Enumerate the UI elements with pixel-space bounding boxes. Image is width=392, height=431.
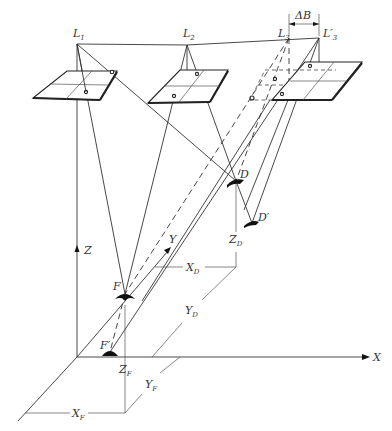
label-xd: XD — [185, 261, 200, 276]
photogrammetry-diagram: L1 L2 L3 L′3 ΔB D D′ F F′ Z Y X XD YD ZD… — [0, 0, 392, 431]
photo-2-point-f — [172, 94, 175, 97]
ray-photo3-f — [142, 100, 270, 301]
photo-3-dashed-point-f — [250, 96, 254, 100]
label-f: F — [112, 280, 121, 293]
delta-b-arrow-right-icon — [313, 22, 319, 26]
point-dprime-marker-icon — [244, 221, 259, 228]
photo-1-plate — [33, 71, 117, 100]
label-l3: L3 — [277, 27, 290, 42]
x-axis-arrow-icon — [362, 354, 370, 360]
ray-l3-d — [236, 38, 289, 181]
label-l1: L1 — [72, 27, 85, 42]
point-f-marker-icon — [115, 294, 135, 301]
label-y-axis: Y — [169, 233, 178, 246]
label-yf: YF — [145, 378, 158, 393]
delta-b-arrow-left-icon — [289, 22, 295, 26]
photo-1 — [33, 44, 117, 100]
label-z-axis: Z — [83, 244, 92, 257]
photo-2-point-d — [195, 72, 198, 75]
label-zd: ZD — [228, 233, 243, 248]
z-axis-arrow-icon — [75, 245, 80, 252]
flight-line-l1-l2 — [77, 44, 187, 45]
label-l3-prime: L′3 — [322, 27, 338, 42]
photo-2 — [148, 70, 228, 103]
label-yd: YD — [185, 304, 198, 319]
flight-line-l2-l3 — [187, 38, 319, 45]
label-d-prime: D′ — [257, 211, 270, 224]
ray-l1-d — [77, 44, 236, 181]
yd-line-lower — [152, 323, 182, 357]
label-zf: ZF — [118, 363, 133, 378]
photo-3-prime-point-f — [280, 92, 283, 95]
yf-line-lower — [125, 394, 142, 413]
yd-line-upper — [202, 267, 236, 300]
photo-3-prime — [272, 62, 362, 100]
label-l2: L2 — [182, 27, 195, 42]
label-f-prime: F′ — [99, 339, 111, 352]
coordinate-axes — [18, 100, 370, 421]
label-d: D — [239, 168, 249, 181]
photo-3-prime-point — [308, 64, 311, 67]
photo-2-edge — [148, 102, 210, 103]
ray-photo3-d — [244, 100, 288, 210]
photo-2-plate — [148, 70, 228, 103]
ray-l2-d — [187, 45, 236, 181]
yf-line-upper — [160, 357, 180, 373]
label-x-axis: X — [372, 351, 382, 364]
y-axis-arrow-icon — [164, 247, 171, 254]
label-delta-b: ΔB — [294, 9, 311, 22]
ground-diagonal-line — [18, 357, 77, 421]
photo-1-point-d — [110, 70, 114, 74]
ray-f-fprime — [110, 294, 125, 352]
label-xf: XF — [71, 407, 86, 422]
line-d-dprime — [236, 181, 252, 223]
photo-3-dashed-point — [273, 77, 276, 80]
